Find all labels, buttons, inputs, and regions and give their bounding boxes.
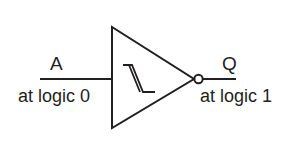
buffer-triangle bbox=[112, 27, 194, 128]
output-state-label: at logic 1 bbox=[200, 87, 272, 105]
input-state-label: at logic 0 bbox=[18, 87, 90, 105]
schmitt-inverter-diagram: A at logic 0 Q at logic 1 bbox=[0, 0, 297, 142]
input-label: A bbox=[50, 54, 63, 73]
output-label: Q bbox=[222, 54, 237, 73]
gate-drawing bbox=[0, 0, 297, 142]
